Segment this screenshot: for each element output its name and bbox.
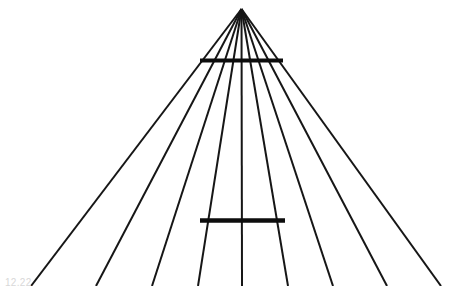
figure-background xyxy=(0,0,466,286)
ponzo-illusion-figure: 12.22 xyxy=(0,0,466,286)
radiating-line-5-center xyxy=(242,9,243,286)
illusion-canvas xyxy=(0,0,466,286)
caption-remnant: 12.22 xyxy=(5,278,32,286)
